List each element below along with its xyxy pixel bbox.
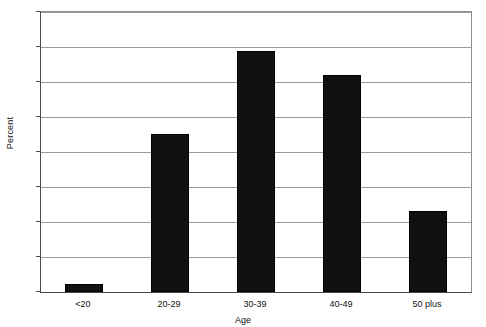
x-axis-tick-label: 50 plus — [387, 299, 467, 309]
x-axis-title: Age — [0, 315, 486, 325]
x-axis-tick-label: 40-49 — [301, 299, 381, 309]
x-axis-tick-label: <20 — [43, 299, 123, 309]
bar — [323, 75, 361, 292]
bar — [237, 51, 275, 292]
bar — [65, 284, 103, 292]
bar-chart: Percent 0510152025303540 <2020-2930-3940… — [0, 0, 486, 327]
bar — [151, 134, 189, 292]
gridline — [41, 47, 471, 48]
bar — [409, 211, 447, 292]
x-axis-tick-label: 20-29 — [129, 299, 209, 309]
plot-area — [40, 11, 472, 293]
gridline — [41, 12, 471, 13]
y-axis-title: Percent — [5, 101, 15, 165]
x-axis-tick-label: 30-39 — [215, 299, 295, 309]
